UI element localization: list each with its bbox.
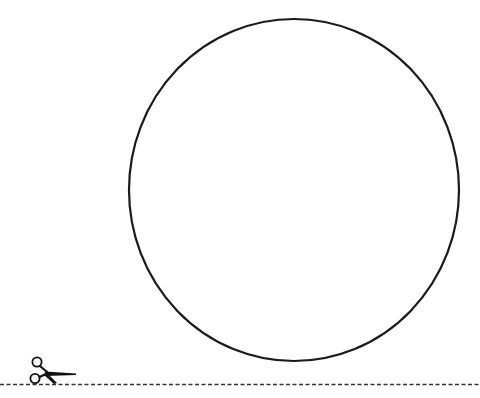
- cut-out-circle[interactable]: [129, 19, 459, 361]
- scissors-icon: [30, 357, 76, 384]
- worksheet-canvas: [0, 0, 480, 398]
